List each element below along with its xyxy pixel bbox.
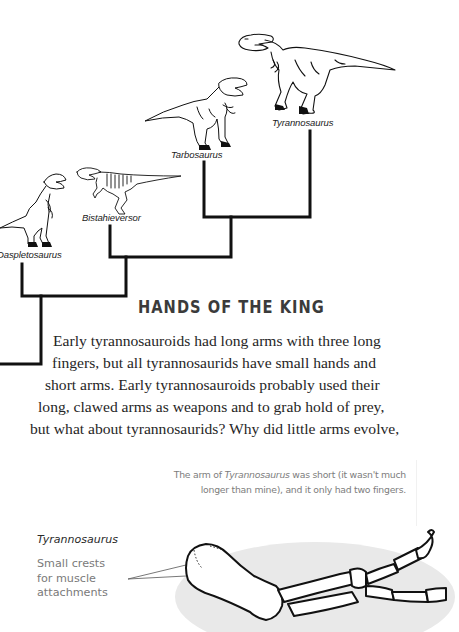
tyrannosaurus-arm-bones-icon — [180, 528, 446, 622]
